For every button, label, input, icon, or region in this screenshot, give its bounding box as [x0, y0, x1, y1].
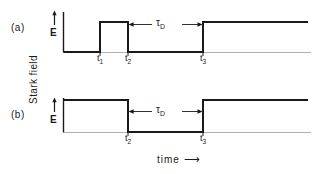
panel-b-waveform-trace	[64, 100, 309, 132]
panel-b-tau-d-arrow-icon	[129, 109, 203, 114]
panel-a-tick-label-t2: t2	[125, 53, 131, 65]
panel-a-label: (a)	[11, 22, 25, 33]
panel-a-tau-subscript: D	[160, 23, 165, 30]
panel-b-amplitude-label: E	[50, 114, 57, 125]
y-axis-title: Stark field	[28, 36, 39, 124]
panel-a-waveform-trace	[64, 22, 309, 52]
panel-a-tick-label-t3: t3	[200, 53, 206, 65]
panel-a-tick-label-t1: t1	[97, 53, 103, 65]
stark-field-timing-diagram: (a) (b) E E Stark field time⟶ τD τD t1 t…	[0, 0, 320, 174]
panel-b-tick-label-t2: t2	[125, 133, 131, 145]
panel-b-tick-label-t3: t3	[200, 133, 206, 145]
x-axis-title-text: time	[157, 154, 180, 165]
panel-b-tau-subscript: D	[160, 110, 165, 117]
panel-a-amplitude-label: E	[50, 27, 57, 38]
tick-subscript: 3	[203, 58, 207, 65]
panel-a-tau-d-label: τD	[156, 17, 165, 30]
tick-subscript: 3	[203, 138, 207, 145]
tick-subscript: 1	[100, 58, 104, 65]
panel-b-tau-d-label: τD	[156, 104, 165, 117]
x-axis-arrow-icon: ⟶	[184, 153, 201, 166]
x-axis-title: time⟶	[157, 153, 201, 166]
tick-subscript: 2	[128, 58, 132, 65]
panel-a-amplitude-arrow-icon	[52, 11, 56, 26]
tick-subscript: 2	[128, 138, 132, 145]
panel-b-amplitude-arrow-icon	[52, 98, 56, 113]
panel-a-tau-d-arrow-icon	[129, 22, 203, 27]
panel-b-label: (b)	[11, 109, 25, 120]
